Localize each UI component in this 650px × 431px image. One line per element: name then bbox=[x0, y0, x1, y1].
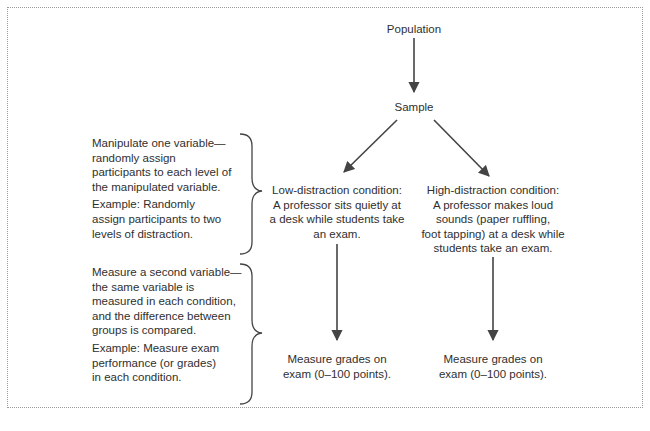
note-line: randomly assign bbox=[92, 151, 252, 166]
note-line: groups is compared. bbox=[92, 323, 252, 338]
condition-line: sounds (paper ruffling, bbox=[413, 212, 573, 227]
low-measure: Measure grades on exam (0–100 points). bbox=[272, 352, 402, 381]
low-distraction-condition: Low-distraction condition: A professor s… bbox=[262, 183, 412, 241]
example-line: Example: Randomly bbox=[92, 197, 252, 212]
sample-label: Sample bbox=[384, 100, 444, 115]
example-line: in each condition. bbox=[92, 370, 252, 385]
high-measure: Measure grades on exam (0–100 points). bbox=[428, 352, 558, 381]
condition-line: an exam. bbox=[262, 227, 412, 242]
measure-note: Measure a second variable— the same vari… bbox=[92, 265, 252, 388]
condition-line: students take an exam. bbox=[413, 241, 573, 256]
note-line: the manipulated variable. bbox=[92, 180, 252, 195]
measure-line: exam (0–100 points). bbox=[428, 367, 558, 382]
measure-line: exam (0–100 points). bbox=[272, 367, 402, 382]
population-label: Population bbox=[374, 22, 454, 37]
measure-line: Measure grades on bbox=[272, 352, 402, 367]
example-line: levels of distraction. bbox=[92, 227, 252, 242]
note-line: measured in each condition, bbox=[92, 294, 252, 309]
note-line: Measure a second variable— bbox=[92, 265, 252, 280]
condition-line: High-distraction condition: bbox=[413, 183, 573, 198]
example-line: performance (or grades) bbox=[92, 356, 252, 371]
condition-line: A professor sits quietly at bbox=[262, 198, 412, 213]
manipulate-note: Manipulate one variable— randomly assign… bbox=[92, 136, 252, 244]
high-distraction-condition: High-distraction condition: A professor … bbox=[413, 183, 573, 256]
arrow-sample-to-low bbox=[344, 120, 397, 172]
condition-line: A professor makes loud bbox=[413, 198, 573, 213]
arrow-sample-to-high bbox=[434, 120, 489, 176]
example-line: assign participants to two bbox=[92, 212, 252, 227]
note-line: and the difference between bbox=[92, 309, 252, 324]
example-line: Example: Measure exam bbox=[92, 341, 252, 356]
note-line: participants to each level of bbox=[92, 165, 252, 180]
condition-line: Low-distraction condition: bbox=[262, 183, 412, 198]
note-line: the same variable is bbox=[92, 280, 252, 295]
condition-line: a desk while students take bbox=[262, 212, 412, 227]
note-line: Manipulate one variable— bbox=[92, 136, 252, 151]
condition-line: foot tapping) at a desk while bbox=[413, 227, 573, 242]
measure-line: Measure grades on bbox=[428, 352, 558, 367]
